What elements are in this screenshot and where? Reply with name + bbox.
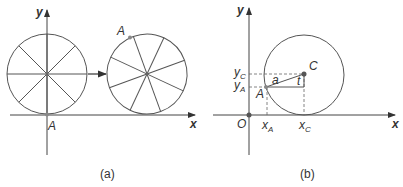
- panel-b-caption: (b): [300, 167, 315, 181]
- wheel-rolled: [94, 21, 200, 127]
- panel-a: y x A A (a): [7, 5, 200, 181]
- panel-b: y x O C A a t yC yA xA xC (b): [213, 3, 400, 181]
- xc-label: xC: [298, 118, 311, 134]
- panel-a-caption: (a): [100, 167, 115, 181]
- panel-a-y-label: y: [35, 5, 44, 19]
- point-a-dot: [264, 85, 268, 89]
- panel-a-x-label: x: [189, 117, 198, 131]
- point-a-label: A: [255, 87, 264, 101]
- point-a-initial-dot: [45, 113, 49, 117]
- figure-canvas: y x A A (a) y x O C A a t yC yA: [0, 0, 403, 187]
- wheel-initial: [7, 34, 87, 117]
- point-a-initial-label: A: [47, 119, 56, 133]
- center-c-dot: [302, 72, 307, 77]
- panel-b-y-label: y: [236, 3, 245, 17]
- xa-label: xA: [261, 118, 273, 134]
- point-a-rolled-label: A: [116, 24, 125, 38]
- angle-t-label: t: [297, 74, 301, 88]
- origin-label: O: [237, 117, 246, 131]
- center-c-label: C: [309, 59, 318, 73]
- radius-a-label: a: [272, 73, 279, 87]
- point-a-rolled-dot: [128, 36, 132, 40]
- panel-b-x-label: x: [391, 117, 400, 131]
- origin-dot: [247, 113, 252, 118]
